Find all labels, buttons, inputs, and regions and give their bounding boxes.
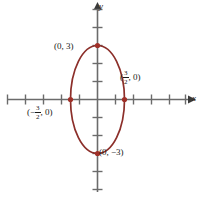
point-left-covertex [68,97,73,102]
label-right-mid: , 0 [129,72,138,82]
ellipse-figure: x y (0, 3) ( 3 2 , 0) (− 3 2 , 0) (0, −3… [0,0,204,202]
point-top-vertex [95,43,100,48]
label-top-close: ) [71,41,74,51]
label-left-mid: , 0 [41,107,50,117]
y-axis-label: y [99,2,103,11]
label-bottom-close: ) [121,147,124,157]
label-top-open: (0, [54,41,66,51]
fraction-numerator: 3 [35,105,41,112]
fraction-denominator: 2 [123,79,129,86]
fraction-denominator: 2 [35,114,41,121]
label-bottom-value: −3 [111,147,121,157]
x-axis-label: x [192,94,196,103]
label-bottom-open: (0, [99,147,111,157]
fraction-three-halves: 3 2 [123,70,129,86]
label-top-vertex: (0, 3) [54,42,74,51]
label-left-close: ) [50,107,53,117]
coordinate-plane [0,0,204,202]
point-right-covertex [122,97,127,102]
fraction-three-halves-negative: 3 2 [35,105,41,121]
fraction-numerator: 3 [123,70,129,77]
label-bottom-vertex: (0, −3) [99,148,124,157]
label-right-covertex: ( 3 2 , 0) [120,70,141,86]
label-right-close: ) [138,72,141,82]
label-left-covertex: (− 3 2 , 0) [27,105,53,121]
